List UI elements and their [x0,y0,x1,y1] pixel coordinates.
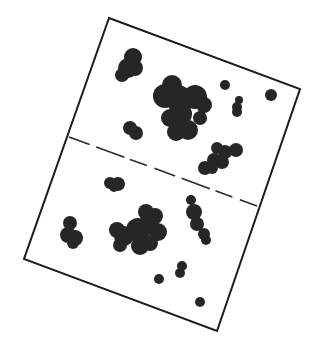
inkblot-diagram [0,0,325,360]
small-dot-bottom-left [154,274,164,284]
small-dot-bottom-right [195,297,205,307]
paper-sheet [24,18,300,331]
small-dot-upper [220,80,230,90]
diagram-canvas [0,0,325,360]
right-dot-upper [265,89,277,101]
